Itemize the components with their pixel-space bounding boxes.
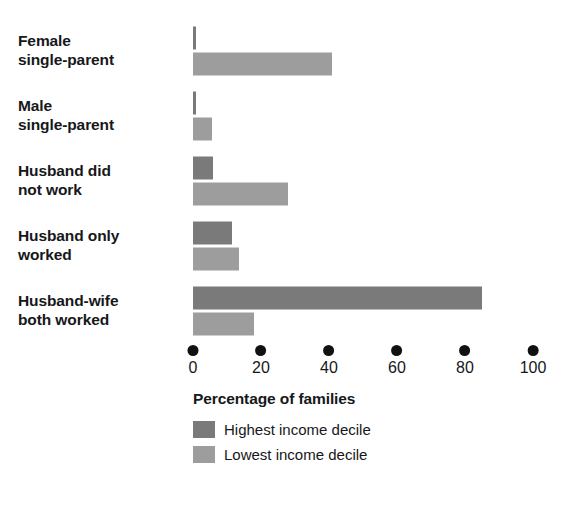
dot-marker-icon bbox=[323, 345, 334, 356]
category-label: Husband only worked bbox=[18, 226, 186, 266]
bar-highest-income-decile bbox=[193, 26, 196, 49]
chart-row-female-single-parent: Female single-parent bbox=[0, 18, 570, 83]
x-axis-tick: 0 bbox=[188, 345, 199, 377]
bar-group bbox=[193, 221, 553, 270]
dot-marker-icon bbox=[459, 345, 470, 356]
dot-marker-icon bbox=[188, 345, 199, 356]
chart-row-husband-wife-both-worked: Husband-wife both worked bbox=[0, 278, 570, 343]
x-axis-tick: 20 bbox=[252, 345, 270, 377]
bar-group bbox=[193, 286, 553, 335]
legend-swatch bbox=[193, 421, 215, 438]
x-axis-tick-label: 20 bbox=[252, 359, 270, 377]
x-axis-tick-label: 80 bbox=[456, 359, 474, 377]
category-label: Female single-parent bbox=[18, 31, 186, 71]
chart-row-male-single-parent: Male single-parent bbox=[0, 83, 570, 148]
bar-lowest-income-decile bbox=[193, 312, 254, 335]
legend-item: Highest income decile bbox=[193, 418, 371, 441]
x-axis-tick: 60 bbox=[388, 345, 406, 377]
category-label: Husband did not work bbox=[18, 161, 186, 201]
bar-chart: Female single-parent Male single-parent … bbox=[0, 0, 570, 508]
bar-group bbox=[193, 91, 553, 140]
bar-highest-income-decile bbox=[193, 156, 213, 179]
bar-lowest-income-decile bbox=[193, 52, 332, 75]
category-label: Husband-wife both worked bbox=[18, 291, 186, 331]
category-label: Male single-parent bbox=[18, 96, 186, 136]
bar-lowest-income-decile bbox=[193, 247, 239, 270]
legend-item: Lowest income decile bbox=[193, 443, 371, 466]
legend-label: Highest income decile bbox=[224, 421, 371, 438]
x-axis-tick: 80 bbox=[456, 345, 474, 377]
bar-highest-income-decile bbox=[193, 91, 196, 114]
bar-group bbox=[193, 26, 553, 75]
bar-highest-income-decile bbox=[193, 221, 232, 244]
x-axis: 020406080100 bbox=[193, 345, 533, 387]
dot-marker-icon bbox=[527, 345, 538, 356]
x-axis-tick-label: 60 bbox=[388, 359, 406, 377]
dot-marker-icon bbox=[255, 345, 266, 356]
x-axis-tick-label: 0 bbox=[188, 359, 199, 377]
chart-row-husband-only-worked: Husband only worked bbox=[0, 213, 570, 278]
x-axis-tick: 100 bbox=[520, 345, 547, 377]
bar-lowest-income-decile bbox=[193, 182, 288, 205]
chart-plot-area: Female single-parent Male single-parent … bbox=[0, 18, 570, 343]
chart-row-husband-did-not-work: Husband did not work bbox=[0, 148, 570, 213]
legend-swatch bbox=[193, 446, 215, 463]
x-axis-tick: 40 bbox=[320, 345, 338, 377]
legend-label: Lowest income decile bbox=[224, 446, 367, 463]
bar-lowest-income-decile bbox=[193, 117, 212, 140]
x-axis-title: Percentage of families bbox=[193, 390, 355, 408]
x-axis-tick-label: 40 bbox=[320, 359, 338, 377]
dot-marker-icon bbox=[391, 345, 402, 356]
chart-legend: Highest income decileLowest income decil… bbox=[193, 418, 371, 468]
bar-highest-income-decile bbox=[193, 286, 482, 309]
bar-group bbox=[193, 156, 553, 205]
x-axis-tick-label: 100 bbox=[520, 359, 547, 377]
